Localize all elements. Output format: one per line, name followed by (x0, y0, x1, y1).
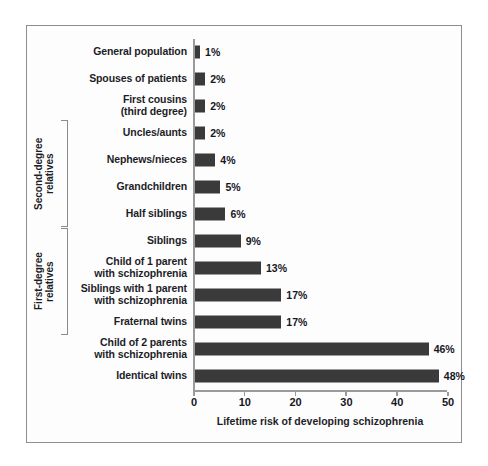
category-label: Fraternal twins (73, 316, 187, 328)
bar (195, 127, 205, 140)
bar (195, 235, 241, 248)
x-axis-title: Lifetime risk of developing schizophreni… (193, 415, 447, 427)
bar-value-label: 46% (434, 343, 455, 355)
bar-row: Grandchildren5% (27, 174, 461, 200)
bar (195, 289, 281, 302)
category-label: Nephews/nieces (73, 154, 187, 166)
category-label: Grandchildren (73, 181, 187, 193)
x-tick-label: 0 (191, 396, 197, 408)
bar-value-label: 17% (286, 316, 307, 328)
bar-value-label: 9% (246, 235, 261, 247)
group-bracket (61, 120, 68, 227)
x-axis-line (193, 390, 447, 392)
category-label: Child of 1 parentwith schizophrenia (73, 256, 187, 279)
plot-area: General population1%Spouses of patients2… (27, 26, 461, 442)
bar-row: Child of 2 parentswith schizophrenia46% (27, 336, 461, 362)
bar (195, 100, 205, 113)
bar-value-label: 13% (266, 262, 287, 274)
x-tick-label: 10 (239, 396, 251, 408)
bar (195, 343, 429, 356)
x-tick-label: 50 (442, 396, 454, 408)
bar-row: Nephews/nieces4% (27, 147, 461, 173)
bar-row: General population1% (27, 39, 461, 65)
bar (195, 208, 225, 221)
bar-row: Fraternal twins17% (27, 309, 461, 335)
group-bracket-label: First-degree relatives (27, 228, 61, 335)
category-label: Child of 2 parentswith schizophrenia (73, 337, 187, 360)
group-bracket-label: Second-degree relatives (27, 120, 61, 227)
bar (195, 181, 220, 194)
bar-value-label: 1% (205, 46, 220, 58)
category-label: Siblings (73, 235, 187, 247)
bar-value-label: 2% (210, 100, 225, 112)
bar-row: Child of 1 parentwith schizophrenia13% (27, 255, 461, 281)
category-label: First cousins(third degree) (73, 94, 187, 117)
bar-value-label: 5% (225, 181, 240, 193)
bar-value-label: 48% (444, 370, 465, 382)
category-label: Uncles/aunts (73, 127, 187, 139)
bar (195, 154, 215, 167)
category-label: Siblings with 1 parentwith schizophrenia (73, 283, 187, 306)
bar-row: First cousins(third degree)2% (27, 93, 461, 119)
category-label: Half siblings (73, 208, 187, 220)
bar-row: Identical twins48% (27, 363, 461, 389)
bar-row: Siblings with 1 parentwith schizophrenia… (27, 282, 461, 308)
bar-row: Half siblings6% (27, 201, 461, 227)
bar-value-label: 17% (286, 289, 307, 301)
bar-value-label: 2% (210, 73, 225, 85)
x-tick-label: 20 (289, 396, 301, 408)
group-bracket (61, 228, 68, 335)
bar (195, 46, 200, 59)
bar-value-label: 6% (230, 208, 245, 220)
bar-row: Uncles/aunts2% (27, 120, 461, 146)
category-label: Spouses of patients (73, 73, 187, 85)
bar-value-label: 2% (210, 127, 225, 139)
category-label: Identical twins (73, 370, 187, 382)
bar (195, 262, 261, 275)
bar (195, 370, 439, 383)
x-tick-label: 30 (340, 396, 352, 408)
bar-row: Spouses of patients2% (27, 66, 461, 92)
bar (195, 316, 281, 329)
bar-row: Siblings9% (27, 228, 461, 254)
category-label: General population (73, 46, 187, 58)
bar (195, 73, 205, 86)
bar-value-label: 4% (220, 154, 235, 166)
x-tick-label: 40 (391, 396, 403, 408)
chart-figure: General population1%Spouses of patients2… (26, 25, 462, 443)
